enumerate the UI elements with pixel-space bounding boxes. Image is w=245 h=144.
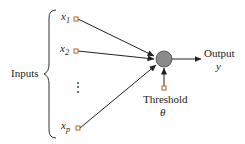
input-sub: p [66, 125, 70, 134]
terminal-x1 [74, 17, 78, 21]
output-label: Output [204, 47, 235, 59]
input-x2-label: x2 [60, 42, 69, 57]
neuron-node [156, 51, 172, 67]
edge-x1 [78, 19, 154, 56]
threshold-label: Threshold [143, 93, 188, 105]
input-xp-label: xp [61, 119, 70, 134]
inputs-brace [44, 10, 56, 138]
terminal-threshold [162, 86, 166, 90]
input-sub: 2 [65, 48, 69, 57]
inputs-label: Inputs [11, 67, 39, 79]
output-var: y [216, 60, 221, 72]
terminal-x2 [74, 49, 78, 53]
input-x1-label: x1 [61, 10, 70, 25]
threshold-var: θ [160, 106, 165, 118]
inputs-ellipsis: ⋮ [72, 80, 84, 95]
edge-x2 [78, 51, 154, 59]
input-sub: 1 [66, 16, 70, 25]
terminal-xp [76, 126, 80, 130]
